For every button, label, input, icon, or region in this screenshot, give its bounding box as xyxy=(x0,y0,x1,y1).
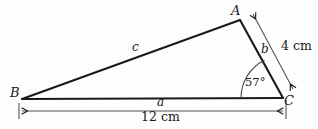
vertex-label-b: B xyxy=(10,86,20,99)
vertex-label-a: A xyxy=(231,4,240,17)
side-label-b: b xyxy=(261,43,269,55)
angle-label-c: 57° xyxy=(245,77,265,89)
side-label-a: a xyxy=(157,96,164,108)
vertex-label-c: C xyxy=(284,94,294,107)
measurement-label-side-b: 4 cm xyxy=(281,40,312,53)
side-a-line xyxy=(22,98,283,99)
side-label-c: c xyxy=(132,41,139,53)
side-c-line xyxy=(22,20,240,99)
measurement-label-base: 12 cm xyxy=(141,111,180,124)
geometry-figure: A B C a b c 4 cm 12 cm 57° xyxy=(0,0,318,129)
triangle-outline xyxy=(22,20,283,99)
